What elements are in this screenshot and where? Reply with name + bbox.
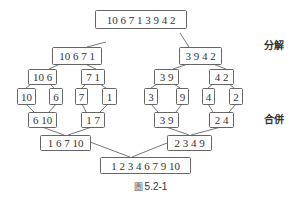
tree-edge (151, 104, 158, 112)
node-value: 2 4 (215, 114, 229, 126)
node-value: 1 (107, 91, 113, 103)
tree-node: 1 2 3 4 6 7 9 10 (101, 158, 191, 174)
tree-edge (90, 142, 130, 157)
node-value: 1 7 (86, 114, 100, 126)
node-value: 10 6 7 1 3 9 4 2 (107, 14, 176, 26)
tree-node: 1 (103, 89, 117, 105)
node-value: 10 6 7 1 (59, 50, 95, 62)
tree-node: 6 10 (29, 113, 57, 128)
tree-node: 3 9 (155, 113, 179, 128)
node-value: 3 9 (160, 71, 174, 83)
node-value: 7 (79, 91, 85, 103)
node-value: 4 (206, 91, 212, 103)
tree-edge (176, 104, 182, 112)
node-value: 2 (233, 91, 239, 103)
tree-edge (166, 127, 189, 135)
tree-nodes: 10 6 7 1 3 9 4 210 6 7 13 9 4 210 67 13 … (18, 11, 243, 174)
tree-edge (26, 104, 34, 112)
tree-node: 1 6 7 10 (41, 136, 91, 151)
tree-node: 7 (76, 89, 88, 105)
node-value: 4 2 (215, 71, 229, 83)
divide-label: 分解 (264, 39, 284, 51)
tree-edge (82, 104, 86, 112)
node-value: 6 (53, 91, 59, 103)
tree-node: 3 9 4 2 (180, 48, 222, 65)
node-value: 1 2 3 4 6 7 9 10 (111, 160, 180, 172)
tree-edge (180, 33, 189, 47)
tree-edge (100, 104, 108, 112)
tree-node: 9 (177, 89, 189, 105)
tree-node: 1 7 (82, 113, 105, 128)
node-value: 3 9 (160, 114, 174, 126)
tree-edge (68, 127, 92, 135)
merge-sort-diagram: 10 6 7 1 3 9 4 210 6 7 13 9 4 210 67 13 … (0, 0, 301, 205)
tree-edge (208, 104, 213, 112)
tree-node: 4 (203, 89, 215, 105)
tree-node: 4 2 (210, 70, 234, 85)
tree-node: 6 (50, 89, 63, 105)
tree-edge (87, 42, 106, 47)
figure-prefix: 圖 (134, 182, 143, 192)
tree-node: 2 3 4 9 (168, 136, 212, 151)
figure-caption: 圖5.2-1 (0, 180, 301, 193)
tree-node: 10 (18, 89, 36, 105)
tree-edge (229, 104, 236, 112)
node-value: 6 10 (33, 114, 53, 126)
tree-edge (49, 104, 56, 112)
node-value: 2 3 4 9 (174, 137, 205, 149)
node-value: 1 6 7 10 (48, 137, 84, 149)
node-value: 10 (21, 91, 33, 103)
tree-edge (132, 143, 167, 157)
tree-node: 7 1 (82, 70, 105, 85)
node-value: 7 1 (86, 71, 100, 83)
tree-node: 3 (145, 89, 158, 105)
merge-label: 合併 (263, 113, 284, 125)
tree-edge (191, 127, 221, 135)
tree-node: 10 6 7 1 (53, 48, 102, 65)
node-value: 3 (148, 91, 154, 103)
tree-node: 3 9 (155, 70, 179, 85)
tree-edge (42, 127, 64, 135)
figure-number: 5.2-1 (145, 181, 168, 192)
tree-node: 2 4 (210, 113, 234, 128)
node-value: 3 9 4 2 (185, 50, 215, 62)
tree-node: 2 (230, 89, 243, 105)
node-value: 9 (180, 91, 186, 103)
tree-node: 10 6 (29, 70, 57, 85)
tree-node: 10 6 7 1 3 9 4 2 (96, 11, 187, 29)
node-value: 10 6 (33, 71, 53, 83)
